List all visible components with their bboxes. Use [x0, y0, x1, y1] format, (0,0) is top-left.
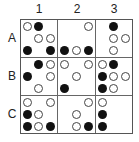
dot-slot [59, 120, 71, 132]
cell-a1 [21, 20, 58, 58]
dot-slot [108, 33, 119, 45]
dot-slot [22, 44, 33, 56]
dot-slot [120, 44, 131, 56]
white-dot-icon [121, 72, 130, 81]
column-label-3: 3 [95, 2, 133, 16]
white-dot-icon [46, 60, 55, 69]
dot-slot [97, 97, 108, 109]
black-dot-icon [98, 122, 107, 131]
white-dot-icon [84, 22, 93, 31]
cell-c2 [58, 96, 96, 133]
dot-slot [59, 97, 71, 109]
dot-slot [33, 33, 44, 45]
dot-slot [22, 120, 33, 132]
dot-slot [22, 33, 33, 45]
dot-slot [97, 82, 108, 94]
dot-slot [33, 120, 44, 132]
dot-slot [45, 71, 56, 83]
dot-slot [108, 44, 119, 56]
dot-slot [33, 71, 44, 83]
white-dot-icon [84, 60, 93, 69]
black-dot-icon [98, 84, 107, 93]
dot-slot [45, 120, 56, 132]
dot-slot [59, 71, 71, 83]
dot-slot [120, 21, 131, 33]
dot-slot [120, 59, 131, 71]
cell-a3 [96, 20, 132, 58]
dot-slot [97, 33, 108, 45]
black-dot-icon [109, 22, 118, 31]
dot-slot [33, 82, 44, 94]
black-dot-icon [23, 110, 32, 119]
black-dot-icon [23, 46, 32, 55]
dot-slot [33, 97, 44, 109]
dot-slot [59, 33, 71, 45]
black-dot-icon [23, 122, 32, 131]
dot-slot [120, 120, 131, 132]
black-dot-icon [60, 46, 69, 55]
black-dot-icon [84, 122, 93, 131]
dot-slot [120, 97, 131, 109]
white-dot-icon [46, 98, 55, 107]
dot-slot [45, 97, 56, 109]
dot-slot [71, 71, 83, 83]
black-dot-icon [109, 60, 118, 69]
white-dot-icon [109, 34, 118, 43]
black-dot-icon [23, 72, 32, 81]
white-dot-icon [34, 110, 43, 119]
white-dot-icon [46, 72, 55, 81]
dot-slot [59, 44, 71, 56]
white-dot-icon [72, 72, 81, 81]
black-dot-icon [34, 60, 43, 69]
dot-slot [97, 109, 108, 121]
dot-slot [82, 109, 94, 121]
column-label-1: 1 [20, 2, 58, 16]
dot-slot [33, 109, 44, 121]
dot-slot [71, 97, 83, 109]
white-dot-icon [98, 98, 107, 107]
dot-slot [45, 82, 56, 94]
dot-slot [82, 33, 94, 45]
dot-slot [97, 59, 108, 71]
dot-slot [22, 97, 33, 109]
white-dot-icon [109, 46, 118, 55]
dot-slot [22, 82, 33, 94]
dot-slot [82, 120, 94, 132]
dot-slot [71, 82, 83, 94]
dot-slot [71, 59, 83, 71]
dot-slot [82, 44, 94, 56]
black-dot-icon [98, 110, 107, 119]
white-dot-icon [98, 60, 107, 69]
column-label-2: 2 [58, 2, 96, 16]
cell-b3 [96, 58, 132, 96]
dot-slot [45, 59, 56, 71]
dot-slot [22, 109, 33, 121]
dot-slot [82, 59, 94, 71]
white-dot-icon [34, 84, 43, 93]
dot-slot [108, 59, 119, 71]
dot-slot [97, 44, 108, 56]
white-dot-icon [121, 34, 130, 43]
black-dot-icon [98, 72, 107, 81]
cell-c3 [96, 96, 132, 133]
dot-slot [45, 109, 56, 121]
white-dot-icon [46, 34, 55, 43]
dot-puzzle-grid [20, 19, 133, 134]
dot-slot [82, 82, 94, 94]
dot-slot [82, 21, 94, 33]
white-dot-icon [109, 72, 118, 81]
white-dot-icon [23, 98, 32, 107]
white-dot-icon [84, 98, 93, 107]
dot-slot [33, 44, 44, 56]
cell-a2 [58, 20, 96, 58]
dot-slot [22, 21, 33, 33]
dot-slot [71, 44, 83, 56]
row-label-c: C [6, 107, 18, 121]
dot-slot [22, 71, 33, 83]
dot-slot [45, 33, 56, 45]
black-dot-icon [46, 46, 55, 55]
dot-slot [22, 59, 33, 71]
row-label-b: B [6, 69, 18, 83]
cell-b2 [58, 58, 96, 96]
dot-slot [82, 71, 94, 83]
